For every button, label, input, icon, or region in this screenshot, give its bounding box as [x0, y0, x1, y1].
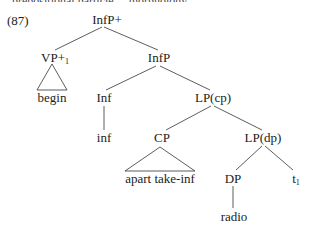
node-cp-leaf: apart take-inf: [125, 172, 195, 186]
node-lp-dp: LP(dp): [245, 131, 282, 145]
trace-index: 1: [296, 178, 300, 187]
node-dp: DP: [225, 172, 242, 186]
node-begin: begin: [38, 91, 67, 105]
node-inf-leaf: inf: [97, 131, 111, 145]
node-infp: InfP: [148, 51, 170, 65]
node-lp-cp: LP(cp): [195, 91, 231, 105]
node-radio: radio: [221, 210, 248, 224]
node-trace: t1: [292, 172, 300, 190]
node-vp-plus: VP+1: [41, 51, 69, 69]
tree-branches: [0, 0, 313, 230]
node-infp-plus: InfP+: [92, 13, 122, 27]
node-cp: CP: [154, 131, 170, 145]
vp-index: 1: [65, 57, 69, 66]
node-inf-head: Inf: [96, 91, 111, 105]
vp-label: VP+: [41, 50, 65, 65]
